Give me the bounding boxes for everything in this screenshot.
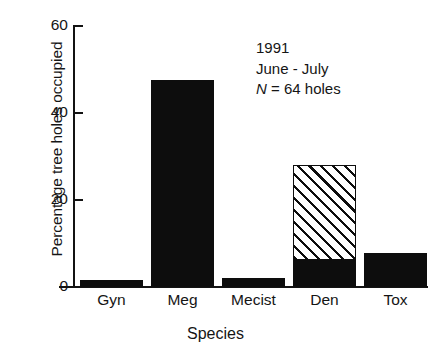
chart-figure: Percentage tree holes occupied 60 40 20 … (0, 0, 431, 359)
bar-den-solid-segment (293, 260, 356, 287)
x-axis-title: Species (0, 325, 431, 343)
y-axis-line (73, 25, 75, 288)
bar-meg (151, 80, 214, 287)
y-tick-40 (75, 112, 83, 114)
y-tick-label-20-wrap: 20 (18, 191, 68, 207)
bar-den-hatched-segment (293, 165, 356, 260)
bar-mecist (222, 278, 285, 287)
bar-tox (364, 253, 427, 287)
y-tick-label-0: 0 (18, 278, 68, 294)
bar-den (293, 165, 356, 287)
bar-tox-solid-segment (364, 253, 427, 287)
y-tick-label-0-wrap: 0 (18, 278, 68, 294)
y-tick-label-40: 40 (18, 104, 68, 120)
y-tick-60 (75, 25, 83, 27)
annotation-sample-text: = 64 holes (267, 80, 341, 97)
annotation-sample-symbol: N (256, 80, 267, 97)
x-tick-label-gyn: Gyn (80, 291, 143, 308)
chart-annotation: 1991 June - July N = 64 holes (256, 38, 341, 100)
x-tick-label-meg: Meg (151, 291, 214, 308)
y-tick-label-60-wrap: 60 (18, 17, 68, 33)
y-tick-label-40-wrap: 40 (18, 104, 68, 120)
annotation-period: June - July (256, 59, 341, 80)
x-tick-label-mecist: Mecist (222, 291, 285, 308)
annotation-sample-size: N = 64 holes (256, 79, 341, 100)
x-tick-label-tox: Tox (364, 291, 427, 308)
y-axis-title: Percentage tree holes occupied (48, 0, 66, 299)
y-tick-20 (75, 199, 83, 201)
bar-meg-solid-segment (151, 80, 214, 287)
bar-gyn-solid-segment (80, 280, 143, 287)
y-tick-label-60: 60 (18, 17, 68, 33)
annotation-year: 1991 (256, 38, 341, 59)
y-tick-label-20: 20 (18, 191, 68, 207)
bar-gyn (80, 280, 143, 287)
bar-mecist-solid-segment (222, 278, 285, 287)
x-tick-label-den: Den (293, 291, 356, 308)
